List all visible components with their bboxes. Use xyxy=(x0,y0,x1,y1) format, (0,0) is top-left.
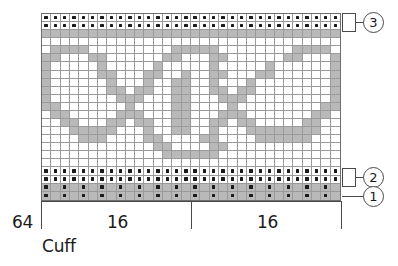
chart-cell xyxy=(200,176,209,184)
chart-cell xyxy=(284,135,293,143)
chart-cell xyxy=(172,46,181,54)
chart-cell xyxy=(266,184,275,192)
chart-cell xyxy=(182,38,191,46)
chart-cell xyxy=(200,95,209,103)
chart-cell xyxy=(126,62,135,70)
chart-row xyxy=(42,127,340,135)
chart-cell xyxy=(219,54,228,62)
chart-cell xyxy=(256,135,265,143)
chart-row xyxy=(42,38,340,46)
chart-cell xyxy=(266,38,275,46)
chart-cell xyxy=(303,135,312,143)
chart-cell xyxy=(107,143,116,151)
chart-cell xyxy=(321,176,330,184)
chart-cell xyxy=(163,176,172,184)
chart-cell xyxy=(154,87,163,95)
chart-cell xyxy=(89,30,98,38)
chart-cell xyxy=(163,143,172,151)
chart-cell xyxy=(200,30,209,38)
chart-cell xyxy=(284,159,293,167)
chart-cell xyxy=(238,95,247,103)
chart-cell xyxy=(61,111,70,119)
chart-cell xyxy=(293,143,302,151)
chart-cell xyxy=(61,103,70,111)
chart-cell xyxy=(275,71,284,79)
chart-cell xyxy=(117,135,126,143)
axis-label-cuff: Cuff xyxy=(42,236,76,256)
chart-cell xyxy=(98,87,107,95)
chart-cell xyxy=(61,151,70,159)
axis-label-repeat-2: 16 xyxy=(257,212,278,232)
chart-cell xyxy=(284,87,293,95)
chart-cell xyxy=(135,127,144,135)
chart-cell xyxy=(293,135,302,143)
chart-cell xyxy=(42,14,51,22)
chart-cell xyxy=(275,127,284,135)
chart-cell xyxy=(126,167,135,175)
chart-cell xyxy=(89,135,98,143)
chart-cell xyxy=(98,62,107,70)
chart-cell xyxy=(228,71,237,79)
chart-cell xyxy=(182,127,191,135)
chart-cell xyxy=(266,62,275,70)
chart-cell xyxy=(70,159,79,167)
chart-cell xyxy=(126,38,135,46)
chart-cell xyxy=(228,184,237,192)
chart-row xyxy=(42,151,340,159)
chart-cell xyxy=(321,54,330,62)
chart-cell xyxy=(172,111,181,119)
chart-cell xyxy=(163,87,172,95)
chart-cell xyxy=(135,62,144,70)
chart-cell xyxy=(266,87,275,95)
chart-cell xyxy=(42,176,51,184)
chart-cell xyxy=(210,95,219,103)
chart-cell xyxy=(117,87,126,95)
chart-cell xyxy=(312,111,321,119)
chart-row xyxy=(42,95,340,103)
chart-cell xyxy=(303,159,312,167)
chart-cell xyxy=(321,184,330,192)
chart-cell xyxy=(210,135,219,143)
chart-cell xyxy=(98,151,107,159)
chart-row xyxy=(42,54,340,62)
chart-cell xyxy=(144,167,153,175)
chart-cell xyxy=(219,71,228,79)
chart-cell xyxy=(107,71,116,79)
chart-cell xyxy=(61,143,70,151)
chart-row xyxy=(42,62,340,70)
chart-cell xyxy=(182,79,191,87)
chart-cell xyxy=(266,167,275,175)
chart-cell xyxy=(89,103,98,111)
chart-cell xyxy=(154,119,163,127)
chart-cell xyxy=(312,95,321,103)
chart-cell xyxy=(51,79,60,87)
chart-cell xyxy=(117,151,126,159)
chart-cell xyxy=(163,119,172,127)
chart-cell xyxy=(107,176,116,184)
chart-cell xyxy=(228,111,237,119)
chart-cell xyxy=(51,111,60,119)
chart-cell xyxy=(51,95,60,103)
chart-cell xyxy=(312,79,321,87)
chart-cell xyxy=(89,71,98,79)
chart-cell xyxy=(284,22,293,30)
chart-cell xyxy=(312,87,321,95)
chart-cell xyxy=(70,46,79,54)
chart-cell xyxy=(266,176,275,184)
chart-cell xyxy=(182,30,191,38)
chart-cell xyxy=(70,135,79,143)
chart-cell xyxy=(42,184,51,192)
chart-cell xyxy=(182,151,191,159)
chart-cell xyxy=(70,111,79,119)
chart-cell xyxy=(219,143,228,151)
chart-cell xyxy=(284,95,293,103)
chart-cell xyxy=(200,127,209,135)
chart-cell xyxy=(144,135,153,143)
chart-cell xyxy=(219,103,228,111)
chart-cell xyxy=(191,95,200,103)
chart-cell xyxy=(117,176,126,184)
chart-cell xyxy=(172,62,181,70)
chart-cell xyxy=(126,46,135,54)
chart-cell xyxy=(154,135,163,143)
chart-cell xyxy=(191,46,200,54)
